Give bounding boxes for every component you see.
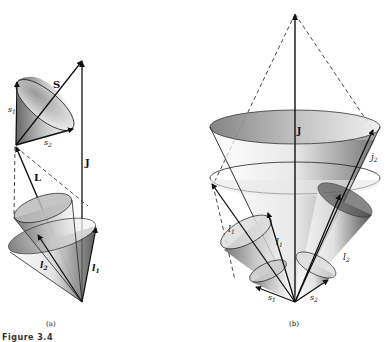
panel-a: S J L s1 s2 l1 l2 (a) (5, 61, 100, 328)
label-s-a: S (53, 79, 60, 90)
label-s2-a: s2 (44, 138, 52, 148)
label-s2-b: s2 (310, 293, 318, 303)
panel-label-b: (b) (289, 320, 299, 328)
label-l1-a: l1 (92, 263, 100, 274)
panel-b: J j2 l1 l1 l2 s1 s2 (b) (210, 14, 380, 328)
vector-coupling-figure: S J L s1 s2 l1 l2 (a) (0, 0, 387, 342)
label-j-b: J (296, 126, 301, 136)
dashed-line-a1 (14, 147, 15, 218)
label-l-a: L (34, 172, 41, 183)
label-s1-a: s1 (8, 105, 16, 115)
figure-caption: Figure 3.4 (2, 333, 53, 342)
label-j2-b: j2 (369, 152, 378, 163)
label-l2-b: l2 (343, 252, 350, 263)
panel-label-a: (a) (46, 320, 56, 328)
label-j-a: J (84, 157, 90, 168)
orbital-cones-a (5, 187, 99, 302)
